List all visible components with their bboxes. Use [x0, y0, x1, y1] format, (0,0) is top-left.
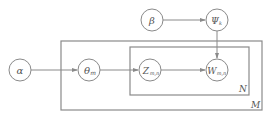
svg-text:α: α — [17, 65, 24, 76]
svg-text:m,n: m,n — [150, 70, 160, 76]
plate-outer-label: M — [250, 100, 261, 110]
svg-text:β: β — [148, 15, 155, 26]
svg-text:θ: θ — [84, 65, 90, 76]
svg-text:Z: Z — [142, 66, 150, 76]
node-psi: Ψ k — [206, 9, 228, 31]
node-z: Z m,n — [139, 59, 161, 81]
svg-text:k: k — [219, 20, 222, 26]
plate-diagram: M N α θ m Z m,n W m,n β Ψ k — [0, 0, 273, 121]
node-beta: β — [141, 9, 163, 31]
svg-text:m,n: m,n — [217, 70, 227, 76]
node-alpha: α — [9, 59, 31, 81]
plate-inner-label: N — [238, 84, 248, 94]
node-theta: θ m — [78, 59, 100, 81]
node-w: W m,n — [206, 59, 228, 81]
svg-text:m: m — [90, 69, 96, 76]
